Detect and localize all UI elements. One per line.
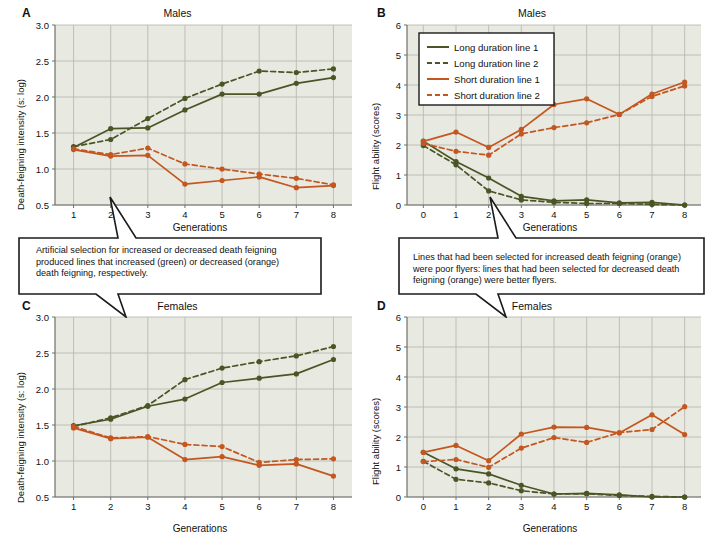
series-point (294, 70, 299, 75)
series-point (257, 359, 262, 364)
x-tick-label: 8 (331, 209, 336, 220)
y-tick-label: 1.5 (36, 128, 49, 139)
series-point (486, 188, 491, 193)
series-point (486, 471, 491, 476)
series-point (519, 483, 524, 488)
y-tick-label: 2 (396, 140, 401, 151)
series-point (453, 162, 458, 167)
series-point (584, 96, 589, 101)
series-point (331, 66, 336, 71)
series-point (649, 412, 654, 417)
series-point (294, 185, 299, 190)
series-point (294, 457, 299, 462)
x-tick-label: 5 (219, 501, 224, 512)
legend-label: Long duration line 2 (454, 58, 538, 69)
series-point (453, 130, 458, 135)
callout-right-text: Lines that had been selected for increas… (413, 252, 693, 287)
y-tick-label: 0 (396, 492, 401, 503)
x-tick-label: 8 (682, 501, 687, 512)
series-point (182, 442, 187, 447)
series-point (421, 459, 426, 464)
legend-label: Short duration line 1 (454, 74, 540, 85)
x-tick-label: 1 (71, 501, 76, 512)
series-point (108, 126, 113, 131)
series-point (519, 131, 524, 136)
y-tick-label: 2.5 (36, 56, 49, 67)
y-tick-label: 3 (396, 110, 401, 121)
series-point (219, 92, 224, 97)
panel-d: D Females Flight ability (scores) 654321… (355, 295, 709, 546)
series-point (617, 493, 622, 498)
y-tick-label: 2 (396, 432, 401, 443)
series-point (584, 491, 589, 496)
series-point (219, 454, 224, 459)
series-point (551, 125, 556, 130)
series-point (108, 435, 113, 440)
series-point (519, 488, 524, 493)
series-point (486, 153, 491, 158)
x-tick-label: 1 (453, 501, 458, 512)
series-point (453, 149, 458, 154)
series-point (551, 491, 556, 496)
series-point (219, 81, 224, 86)
series-point (145, 146, 150, 151)
series-point (617, 112, 622, 117)
y-tick-label: 1.5 (36, 420, 49, 431)
y-tick-label: 5 (396, 342, 401, 353)
series-point (219, 366, 224, 371)
series-point (182, 96, 187, 101)
series-point (294, 176, 299, 181)
series-point (421, 141, 426, 146)
series-point (145, 403, 150, 408)
series-point (182, 161, 187, 166)
series-point (219, 166, 224, 171)
y-tick-label: 0.5 (36, 492, 49, 503)
legend-label: Short duration line 2 (454, 90, 540, 101)
series-point (421, 450, 426, 455)
series-point (453, 443, 458, 448)
series-point (219, 178, 224, 183)
series-point (649, 494, 654, 499)
series-point (182, 396, 187, 401)
y-tick-label: 4 (396, 372, 401, 383)
series-point (486, 175, 491, 180)
series-point (682, 404, 687, 409)
series-point (453, 466, 458, 471)
plot-background (55, 25, 352, 205)
series-point (219, 380, 224, 385)
series-point (331, 474, 336, 479)
series-point (617, 430, 622, 435)
series-point (584, 440, 589, 445)
series-point (682, 83, 687, 88)
series-point (649, 94, 654, 99)
legend-label: Long duration line 1 (454, 42, 538, 53)
series-point (519, 127, 524, 132)
series-point (71, 424, 76, 429)
y-tick-label: 1 (396, 170, 401, 181)
x-tick-label: 7 (294, 501, 299, 512)
series-point (182, 377, 187, 382)
series-point (649, 427, 654, 432)
series-point (519, 446, 524, 451)
y-tick-label: 1.0 (36, 164, 49, 175)
x-tick-label: 3 (519, 501, 524, 512)
series-point (519, 431, 524, 436)
series-point (486, 458, 491, 463)
x-tick-label: 4 (182, 501, 187, 512)
series-point (331, 75, 336, 80)
series-point (71, 146, 76, 151)
series-point (294, 353, 299, 358)
y-tick-label: 1.0 (36, 456, 49, 467)
series-point (108, 415, 113, 420)
y-tick-label: 4 (396, 80, 401, 91)
series-point (584, 425, 589, 430)
y-tick-label: 2.5 (36, 348, 49, 359)
series-point (145, 153, 150, 158)
series-point (294, 81, 299, 86)
series-point (682, 432, 687, 437)
panel-c-plot: 3.02.52.01.51.00.512345678 (0, 295, 355, 546)
x-tick-label: 5 (584, 501, 589, 512)
series-point (486, 465, 491, 470)
series-point (257, 68, 262, 73)
series-point (257, 460, 262, 465)
